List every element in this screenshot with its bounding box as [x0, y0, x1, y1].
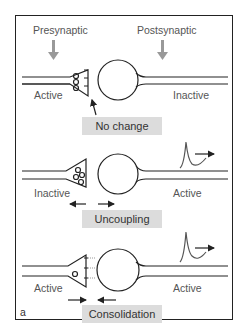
- panel-letter: a: [20, 306, 26, 318]
- postsynaptic-label: Postsynaptic: [137, 24, 197, 36]
- panel2-label: Uncoupling: [82, 210, 162, 228]
- panel-no-change: [22, 60, 228, 115]
- panel1-left-state: Active: [34, 89, 63, 101]
- panel3-label: Consolidation: [82, 305, 162, 323]
- panel3-left-state: Active: [34, 282, 63, 294]
- panel2-right-state: Active: [173, 187, 202, 199]
- postsynaptic-arrow-icon: [157, 40, 168, 60]
- panel1-label: No change: [82, 117, 162, 135]
- presynaptic-arrow-icon: [48, 40, 59, 60]
- panel2-left-state: Inactive: [34, 187, 70, 199]
- presynaptic-label: Presynaptic: [33, 24, 88, 36]
- panel3-right-state: Active: [173, 282, 202, 294]
- panel1-right-state: Inactive: [173, 89, 209, 101]
